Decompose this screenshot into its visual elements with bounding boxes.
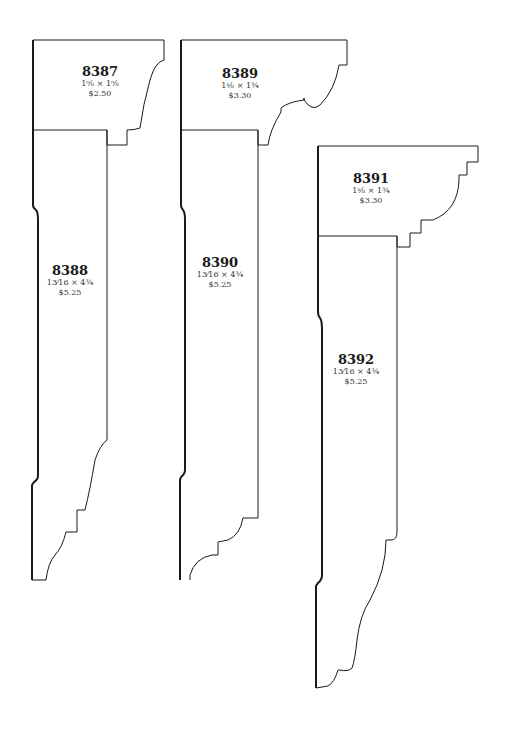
moulding-profiles-drawing — [0, 0, 512, 737]
item-number: 8389 — [200, 67, 280, 81]
item-price: $5.25 — [180, 280, 260, 290]
moulding-label-8391: 8391 1⅛ × 1¾ $3.30 — [331, 172, 411, 206]
item-number: 8391 — [331, 172, 411, 186]
item-number: 8388 — [30, 264, 110, 278]
item-size: 13⁄16 × 4¾ — [180, 270, 260, 280]
item-size: 1⅛ × 1¾ — [200, 81, 280, 91]
item-size: 13⁄16 × 4¾ — [30, 278, 110, 288]
moulding-label-8389: 8389 1⅛ × 1¾ $3.30 — [200, 67, 280, 101]
item-size: 13⁄16 × 4¾ — [316, 367, 396, 377]
item-number: 8387 — [60, 65, 140, 79]
profile-8390 — [180, 40, 258, 580]
moulding-label-8392: 8392 13⁄16 × 4¾ $5.25 — [316, 353, 396, 387]
item-price: $2.50 — [60, 89, 140, 99]
profile-8392 — [316, 146, 397, 688]
item-number: 8390 — [180, 256, 260, 270]
moulding-label-8390: 8390 13⁄16 × 4¾ $5.25 — [180, 256, 260, 290]
item-size: 1⅝ × 1⅝ — [60, 79, 140, 89]
profile-8388 — [32, 40, 107, 580]
item-price: $5.25 — [316, 377, 396, 387]
moulding-label-8387: 8387 1⅝ × 1⅝ $2.50 — [60, 65, 140, 99]
item-price: $5.25 — [30, 288, 110, 298]
item-price: $3.30 — [200, 91, 280, 101]
catalog-page: 8387 1⅝ × 1⅝ $2.50 8388 13⁄16 × 4¾ $5.25… — [0, 0, 512, 737]
item-number: 8392 — [316, 353, 396, 367]
item-size: 1⅛ × 1¾ — [331, 186, 411, 196]
moulding-label-8388: 8388 13⁄16 × 4¾ $5.25 — [30, 264, 110, 298]
item-price: $3.30 — [331, 196, 411, 206]
